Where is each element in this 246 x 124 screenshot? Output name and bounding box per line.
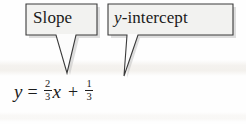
equation-slope-numerator: 2 bbox=[44, 79, 51, 90]
callout-label-slope: Slope bbox=[33, 9, 72, 26]
equation: y = 2 3 x + 1 3 bbox=[14, 80, 94, 104]
equation-intercept-numerator: 1 bbox=[86, 79, 93, 90]
callout-label-y-intercept: y-intercept bbox=[114, 9, 188, 26]
equation-slope-denominator: 3 bbox=[44, 92, 51, 103]
equation-lhs-variable: y bbox=[14, 82, 22, 101]
equation-variable-x: x bbox=[53, 82, 61, 101]
equation-slope-fraction: 2 3 bbox=[44, 79, 52, 103]
figure-canvas: Slope y-intercept y = 2 3 x + 1 3 bbox=[0, 0, 246, 124]
equation-intercept-denominator: 3 bbox=[86, 92, 93, 103]
equation-equals-sign: = bbox=[27, 83, 37, 101]
equation-plus-sign: + bbox=[68, 83, 78, 101]
callout-label-y-intercept-suffix: -intercept bbox=[122, 8, 188, 27]
callout-label-y-intercept-variable: y bbox=[114, 8, 122, 27]
equation-intercept-fraction: 1 3 bbox=[85, 79, 93, 103]
